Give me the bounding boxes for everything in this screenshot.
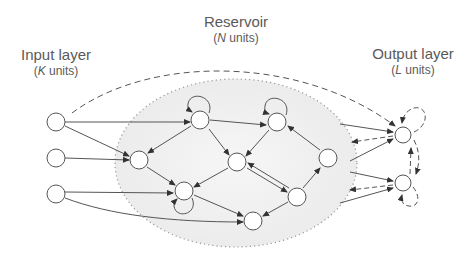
- reservoir-node-H: [244, 212, 262, 230]
- input-node-1: [47, 113, 65, 131]
- input-node-3: [47, 185, 65, 203]
- reservoir-node-E: [319, 149, 337, 167]
- edge-res-O1-b: [350, 139, 393, 161]
- network-diagram: [0, 0, 471, 258]
- input-node-2: [47, 149, 65, 167]
- edge-O1-O2: [414, 140, 419, 174]
- reservoir-node-A: [191, 111, 209, 129]
- reservoir-node-F: [175, 182, 193, 200]
- edge-res-O2-a: [350, 172, 393, 181]
- feedback-O2-res: [350, 185, 393, 190]
- reservoir-node-B: [268, 113, 286, 131]
- reservoir-node-C: [130, 151, 148, 169]
- reservoir-node-D: [228, 153, 246, 171]
- edge-res-O1-a: [340, 124, 393, 132]
- output-node-1: [395, 127, 411, 143]
- output-node-2: [395, 175, 411, 191]
- edge-O2-O1: [410, 148, 411, 174]
- reservoir-node-G: [288, 188, 306, 206]
- feedback-O1-res: [352, 136, 393, 142]
